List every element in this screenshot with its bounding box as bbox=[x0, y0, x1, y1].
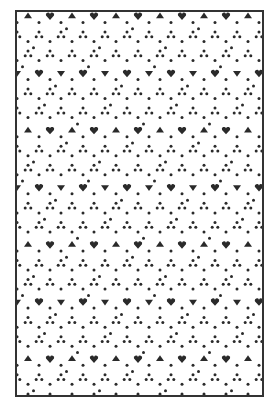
quasi-periodic-dot-pattern bbox=[17, 12, 262, 395]
pattern-frame bbox=[15, 10, 264, 397]
